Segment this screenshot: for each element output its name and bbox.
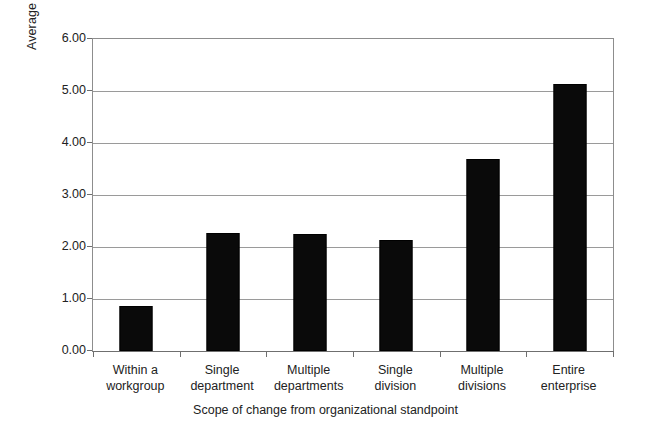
x-tick-mark	[353, 351, 354, 357]
y-tick-mark	[87, 246, 92, 247]
y-tick-label: 0.00	[40, 343, 86, 357]
x-tick-label-line: divisions	[432, 378, 532, 394]
x-tick-label: Singledivision	[345, 362, 445, 394]
x-tick-mark	[180, 351, 181, 357]
y-tick-label: 2.00	[40, 239, 86, 253]
x-tick-label: Within aworkgroup	[85, 362, 185, 394]
y-tick-label: 5.00	[40, 83, 86, 97]
x-tick-marks-group	[93, 39, 613, 351]
plot-area	[92, 38, 614, 352]
x-tick-label-line: Multiple	[432, 362, 532, 378]
x-tick-label: Singledepartment	[172, 362, 272, 394]
y-tick-label: 3.00	[40, 187, 86, 201]
y-tick-mark	[87, 298, 92, 299]
x-tick-mark	[613, 351, 614, 357]
x-tick-label-line: Single	[345, 362, 445, 378]
x-tick-label-line: Single	[172, 362, 272, 378]
x-tick-label: Multipledivisions	[432, 362, 532, 394]
x-tick-label-line: enterprise	[519, 378, 619, 394]
x-tick-label-line: Within a	[85, 362, 185, 378]
y-tick-mark	[87, 194, 92, 195]
y-tick-mark	[87, 142, 92, 143]
y-axis-title: Average FTE dedicated to change manageme…	[22, 0, 42, 50]
x-tick-mark	[526, 351, 527, 357]
x-tick-label-line: departments	[259, 378, 359, 394]
x-tick-label-line: Entire	[519, 362, 619, 378]
x-tick-label: Multipledepartments	[259, 362, 359, 394]
x-tick-label-line: division	[345, 378, 445, 394]
bar-chart-figure: Average FTE dedicated to change manageme…	[0, 0, 651, 441]
x-tick-label-line: workgroup	[85, 378, 185, 394]
y-tick-label: 1.00	[40, 291, 86, 305]
x-tick-label: Entireenterprise	[519, 362, 619, 394]
x-axis-title: Scope of change from organizational stan…	[0, 403, 651, 417]
y-tick-label: 4.00	[40, 135, 86, 149]
y-tick-label: 6.00	[40, 31, 86, 45]
y-tick-mark	[87, 38, 92, 39]
x-tick-label-line: Multiple	[259, 362, 359, 378]
x-tick-mark	[440, 351, 441, 357]
x-tick-label-line: department	[172, 378, 272, 394]
y-tick-mark	[87, 350, 92, 351]
x-tick-mark	[266, 351, 267, 357]
x-tick-mark	[93, 351, 94, 357]
y-tick-mark	[87, 90, 92, 91]
